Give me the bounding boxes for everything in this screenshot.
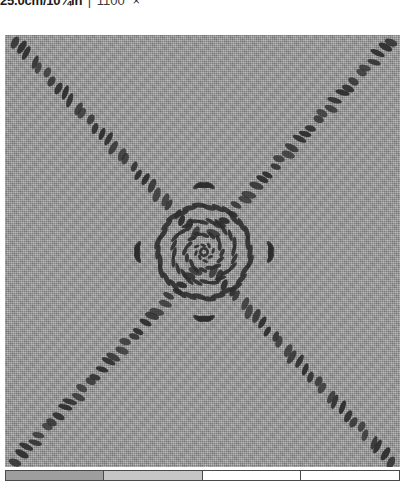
outer-ring [153, 202, 256, 302]
stitch-mark [193, 244, 200, 249]
close-icon[interactable]: × [128, 0, 140, 8]
stitch-mark [8, 457, 23, 467]
flare-right [266, 240, 276, 264]
stitch-mark [229, 200, 242, 210]
swatch-cell-3[interactable] [203, 471, 301, 480]
stitch-mark [162, 290, 175, 301]
stitch-mark [306, 371, 315, 384]
dimension-label: 25.0cm/10¾in [0, 0, 82, 8]
stitch-mark [262, 325, 272, 338]
stitch-mark [194, 250, 199, 257]
swatch-cell-2[interactable] [104, 471, 202, 480]
stitch-mark [118, 337, 131, 347]
stitch-mark [32, 431, 45, 440]
inner-ring [181, 231, 226, 274]
flare-left [133, 240, 143, 264]
pattern-code-label: 1100 [97, 0, 125, 8]
flare-bottom [192, 314, 216, 324]
stitch-mark [218, 242, 222, 251]
stitch-mark [130, 161, 139, 173]
arm-top-left [9, 35, 202, 241]
caption-separator: | [86, 0, 93, 8]
stitch-mark [338, 399, 348, 415]
stitch-mark [207, 254, 214, 259]
swatch-cell-1[interactable] [6, 471, 104, 480]
stitch-mark [75, 382, 89, 394]
caption-bar: 25.0cm/10¾in | 1100 × [0, 0, 418, 9]
arm-bottom-right [207, 263, 397, 467]
embroidery-photo[interactable] [5, 35, 400, 467]
stitch-mark [185, 254, 189, 263]
stitch-mark [174, 262, 181, 275]
stitch-mark [211, 248, 216, 255]
swatch-cell-4[interactable] [301, 471, 399, 480]
stitch-mark [367, 58, 382, 67]
core-ring [193, 242, 215, 263]
arm-top-right [205, 37, 398, 239]
flare-top [192, 181, 216, 191]
stitch-mark [270, 162, 282, 171]
arm-bottom-left [8, 265, 204, 467]
stitch-mark [158, 298, 173, 309]
stitch-mark [206, 242, 211, 249]
stitch-mark [114, 345, 129, 356]
stitch-pattern-layer [5, 35, 400, 467]
color-scale-strip[interactable] [5, 470, 400, 481]
stitch-mark [200, 243, 207, 248]
stitch-mark [176, 227, 188, 237]
stitch-mark [202, 259, 209, 264]
stitch-mark [327, 96, 343, 105]
stitch-mark [95, 365, 109, 374]
middle-ring [169, 217, 239, 287]
stitch-mark [90, 122, 99, 135]
